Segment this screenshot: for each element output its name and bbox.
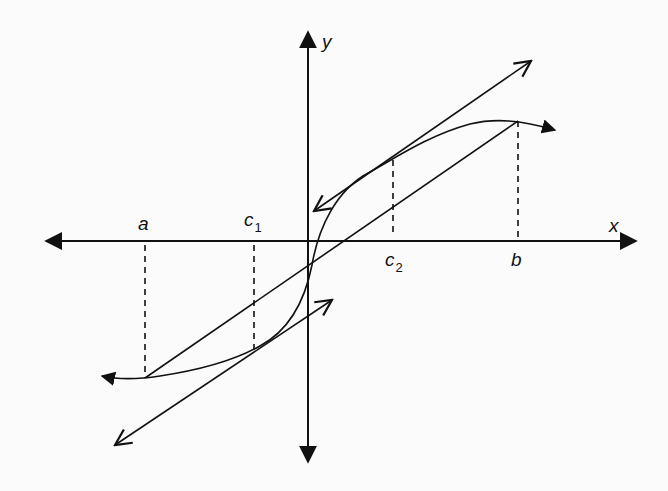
point-c1-label: c1 xyxy=(244,210,262,229)
point-c2-label: c2 xyxy=(385,250,403,269)
c2-subscript: 2 xyxy=(396,260,403,275)
c1-base: c xyxy=(244,209,254,230)
point-a-label: a xyxy=(138,214,149,233)
c2-base: c xyxy=(385,249,395,270)
secant-line xyxy=(145,121,518,378)
diagram-graphics xyxy=(0,0,668,491)
x-axis-label: x xyxy=(609,216,619,235)
point-b-label: b xyxy=(511,250,522,269)
c1-subscript: 1 xyxy=(255,220,262,235)
tangent-c2 xyxy=(314,61,531,211)
mvt-diagram: y x a c1 c2 b xyxy=(0,0,668,491)
function-curve xyxy=(102,121,555,379)
tangent-c1 xyxy=(115,300,332,445)
y-axis-label: y xyxy=(322,32,332,51)
